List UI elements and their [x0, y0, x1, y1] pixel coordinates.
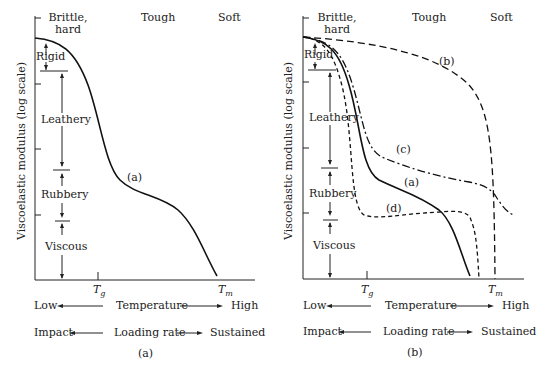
curve-label-b: (b): [439, 56, 455, 68]
tick-tm: Tm: [218, 284, 233, 300]
rate-low: Impact: [34, 327, 73, 339]
rate-high: Sustained: [481, 326, 536, 338]
tick-tm: Tm: [488, 284, 503, 300]
rate-low: Impact: [303, 326, 342, 338]
tick-tg: Tg: [361, 284, 373, 300]
temp-label: Temperature: [116, 300, 188, 312]
caption-a: (a): [138, 348, 153, 360]
rate-high: Sustained: [210, 327, 265, 339]
region-rigid: Rigid: [36, 51, 65, 63]
temp-high: High: [502, 300, 529, 312]
rate-label: Loading rate: [114, 327, 185, 339]
region-viscous: Viscous: [45, 241, 87, 253]
label-brittle: Brittle,hard: [48, 12, 88, 36]
temp-low: Low: [34, 300, 57, 312]
caption-b: (b): [407, 347, 423, 359]
label-soft: Soft: [490, 12, 513, 24]
region-leathery: Leathery: [309, 112, 359, 124]
curve-label-a: (a): [127, 172, 142, 184]
panel-a: Brittle,hard Tough Soft Rigid Leathery R…: [0, 0, 269, 374]
temp-low: Low: [303, 300, 326, 312]
region-viscous: Viscous: [313, 240, 355, 252]
curve-label-c: (c): [396, 144, 411, 156]
region-rubbery: Rubbery: [309, 188, 356, 200]
region-rubbery: Rubbery: [41, 189, 88, 201]
temp-label: Temperature: [385, 300, 457, 312]
curve-label-d: (d): [386, 203, 402, 215]
curve-label-a: (a): [404, 177, 419, 189]
label-tough: Tough: [141, 12, 175, 24]
tick-tg: Tg: [93, 284, 105, 300]
y-axis-label: Viscoelastic modulus (log scale): [15, 62, 28, 240]
temp-high: High: [231, 300, 258, 312]
label-tough: Tough: [412, 12, 446, 24]
label-soft: Soft: [218, 12, 241, 24]
y-axis-label: Viscoelastic modulus (log scale): [282, 62, 295, 240]
rate-label: Loading rate: [383, 326, 454, 338]
region-rigid: Rigid: [304, 49, 333, 61]
panel-b: Brittle,hard Tough Soft Rigid Leathery R…: [269, 0, 538, 374]
label-brittle: Brittle,hard: [317, 12, 357, 36]
region-leathery: Leathery: [41, 114, 91, 126]
